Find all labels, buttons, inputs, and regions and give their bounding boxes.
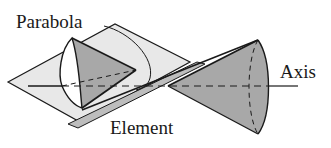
parabola-label: Parabola [16,12,82,31]
element-label: Element [110,118,173,137]
parabola-conic-diagram: Parabola Axis Element [0,0,331,148]
right-cone-shaded [168,40,269,134]
axis-label: Axis [280,62,316,81]
